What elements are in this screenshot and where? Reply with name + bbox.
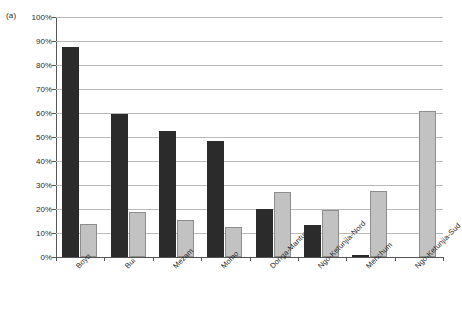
x-tick-mark — [443, 257, 444, 261]
bar — [80, 224, 97, 257]
y-tick-label: 20% — [18, 205, 52, 214]
bar — [256, 209, 273, 257]
y-tick-label: 80% — [18, 61, 52, 70]
x-tick-mark — [104, 257, 105, 261]
bar — [352, 255, 369, 257]
panel-letter: (a) — [6, 11, 16, 20]
plot-area — [56, 17, 443, 257]
x-tick-mark — [201, 257, 202, 261]
x-tick-mark — [153, 257, 154, 261]
bar — [129, 212, 146, 257]
y-tick-label: 30% — [18, 181, 52, 190]
x-tick-mark — [56, 257, 57, 261]
x-tick-mark — [250, 257, 251, 261]
bar-group — [62, 17, 98, 257]
bar — [159, 131, 176, 257]
y-tick-label: 50% — [18, 133, 52, 142]
y-tick-label: 40% — [18, 157, 52, 166]
bar-group — [111, 17, 147, 257]
y-tick-label: 100% — [18, 13, 52, 22]
y-tick-label: 0% — [18, 253, 52, 262]
bar-group — [159, 17, 195, 257]
y-tick-label: 90% — [18, 37, 52, 46]
bar-group — [304, 17, 340, 257]
y-tick-label: 60% — [18, 109, 52, 118]
bar — [207, 141, 224, 257]
x-axis-label: Bui — [123, 256, 137, 270]
bar — [419, 111, 436, 257]
x-tick-mark — [298, 257, 299, 261]
bar — [111, 114, 128, 257]
y-tick-label: 70% — [18, 85, 52, 94]
y-tick-label: 10% — [18, 229, 52, 238]
bar-group — [207, 17, 243, 257]
bar-group — [401, 17, 437, 257]
bar — [62, 47, 79, 257]
x-tick-mark — [395, 257, 396, 261]
bar-group — [256, 17, 292, 257]
x-tick-mark — [346, 257, 347, 261]
